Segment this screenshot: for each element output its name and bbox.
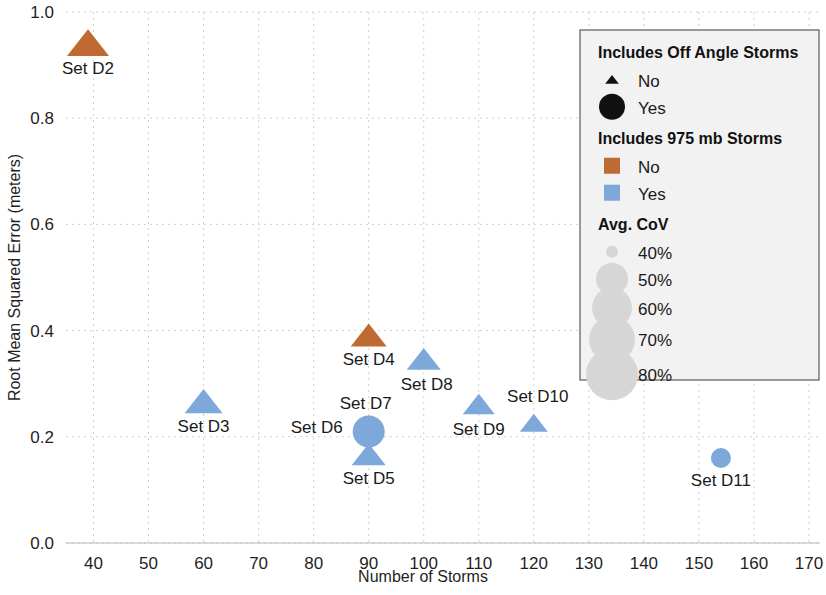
- legend-item-label: Yes: [638, 185, 666, 204]
- legend-item-label: 50%: [638, 271, 672, 290]
- point-label: Set D10: [507, 387, 568, 406]
- point-label: Set D6: [291, 418, 343, 437]
- data-point[interactable]: Set D4: [343, 323, 395, 368]
- x-tick-label: 160: [740, 554, 768, 573]
- point-label: Set D9: [453, 420, 505, 439]
- point-label: Set D8: [401, 375, 453, 394]
- data-point[interactable]: Set D8: [401, 348, 453, 394]
- point-marker: [520, 414, 548, 432]
- legend-section-title: Includes 975 mb Storms: [598, 130, 782, 147]
- y-tick-label: 0.2: [30, 428, 54, 447]
- x-tick-label: 130: [575, 554, 603, 573]
- point-label: Set D4: [343, 350, 395, 369]
- legend-item-label: Yes: [638, 99, 666, 118]
- x-axis-title: Number of Storms: [358, 568, 488, 585]
- point-label: Set D2: [62, 59, 114, 78]
- point-marker: [711, 448, 731, 468]
- point-marker: [353, 415, 385, 447]
- point-marker: [185, 389, 223, 413]
- data-point[interactable]: Set D11: [691, 448, 751, 490]
- legend-marker: [586, 348, 638, 400]
- data-point[interactable]: Set D7: [340, 394, 392, 447]
- data-point[interactable]: Set D2: [62, 29, 114, 78]
- x-tick-label: 150: [685, 554, 713, 573]
- legend-item-label: No: [638, 158, 660, 177]
- legend-item-label: No: [638, 72, 660, 91]
- x-tick-label: 80: [304, 554, 323, 573]
- legend-marker: [606, 246, 618, 258]
- y-tick-label: 0.6: [30, 215, 54, 234]
- data-point[interactable]: Set D10: [507, 387, 568, 432]
- legend-item-label: 80%: [638, 366, 672, 385]
- point-marker: [407, 348, 441, 370]
- data-point[interactable]: Set D3: [178, 389, 230, 436]
- x-tick-label: 170: [795, 554, 823, 573]
- y-tick-labels: 0.00.20.40.60.81.0: [30, 3, 54, 553]
- y-tick-label: 1.0: [30, 3, 54, 22]
- y-tick-label: 0.0: [30, 534, 54, 553]
- x-tick-label: 60: [194, 554, 213, 573]
- data-point[interactable]: Set D5: [343, 444, 395, 489]
- point-label: Set D7: [340, 394, 392, 413]
- legend-section-title: Includes Off Angle Storms: [598, 44, 798, 61]
- point-marker: [351, 323, 387, 346]
- x-tick-label: 50: [139, 554, 158, 573]
- point-marker: [67, 29, 109, 56]
- legend: Includes Off Angle StormsNoYesIncludes 9…: [580, 30, 819, 400]
- y-axis-title: Root Mean Squared Error (meters): [6, 154, 23, 401]
- legend-marker: [604, 158, 620, 174]
- legend-item-label: 70%: [638, 331, 672, 350]
- x-tick-label: 70: [249, 554, 268, 573]
- point-label: Set D11: [691, 471, 751, 490]
- legend-item-label: 60%: [638, 300, 672, 319]
- x-tick-label: 40: [84, 554, 103, 573]
- y-tick-label: 0.8: [30, 109, 54, 128]
- legend-marker: [599, 94, 625, 120]
- point-label: Set D5: [343, 469, 395, 488]
- data-point[interactable]: Set D6: [291, 418, 343, 437]
- rmse-vs-storms-scatter-chart: 4050607080901001101201301401501601700.00…: [0, 0, 826, 595]
- x-tick-label: 120: [520, 554, 548, 573]
- point-label: Set D3: [178, 417, 230, 436]
- legend-item-label: 40%: [638, 244, 672, 263]
- scatter-plot-figure: 4050607080901001101201301401501601700.00…: [0, 0, 826, 595]
- x-tick-label: 140: [630, 554, 658, 573]
- point-marker: [463, 394, 495, 414]
- data-point[interactable]: Set D9: [453, 394, 505, 439]
- legend-section-title: Avg. CoV: [598, 216, 669, 233]
- y-tick-label: 0.4: [30, 322, 54, 341]
- legend-marker: [604, 185, 620, 201]
